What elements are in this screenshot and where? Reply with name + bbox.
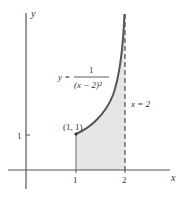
- equation-numerator: 1: [89, 65, 94, 75]
- y-tick-label-1: 1: [17, 131, 22, 141]
- equation-lhs: y =: [57, 72, 70, 82]
- y-axis-label: y: [30, 8, 36, 19]
- point-label: (1, 1): [63, 122, 83, 132]
- x-axis-label: x: [170, 172, 176, 183]
- x-tick-label-2: 2: [122, 175, 127, 185]
- plot-canvas: y x 1 2 1 (1, 1) x = 2 y = 1 (x − 2)²: [0, 0, 180, 199]
- point-marker: [74, 132, 77, 135]
- x-tick-label-1: 1: [73, 175, 78, 185]
- improper-integral-figure: y x 1 2 1 (1, 1) x = 2 y = 1 (x − 2)²: [0, 0, 180, 199]
- equation-denominator: (x − 2)²: [74, 80, 102, 90]
- asymptote-label: x = 2: [130, 99, 151, 109]
- shaded-area: [76, 14, 125, 170]
